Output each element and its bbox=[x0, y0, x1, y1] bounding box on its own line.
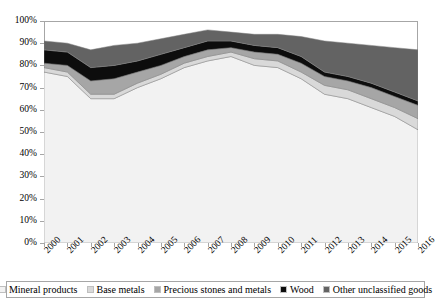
y-axis-tick-label: 0% bbox=[24, 238, 37, 248]
chart-legend: Mineral productsBase metalsPrecious ston… bbox=[6, 281, 425, 298]
y-axis-tick-label: 80% bbox=[20, 61, 37, 71]
legend-swatch-icon bbox=[0, 286, 6, 293]
y-axis-tick-label: 50% bbox=[20, 127, 37, 137]
legend-item[interactable]: Precious stones and metals bbox=[154, 284, 271, 295]
legend-label: Wood bbox=[290, 284, 314, 295]
y-axis-tick-label: 70% bbox=[20, 83, 37, 93]
plot-area bbox=[44, 21, 418, 243]
y-axis-tick-label: 10% bbox=[20, 216, 37, 226]
x-axis: 2000200120022003200420052006200720082009… bbox=[44, 243, 418, 277]
y-axis-tick-label: 90% bbox=[20, 38, 37, 48]
legend-item[interactable]: Other unclassified goods bbox=[323, 284, 432, 295]
legend-label: Other unclassified goods bbox=[333, 284, 432, 295]
stacked-area-series bbox=[44, 21, 418, 243]
legend-swatch-icon bbox=[280, 286, 287, 293]
legend-label: Precious stones and metals bbox=[164, 284, 271, 295]
legend-label: Mineral products bbox=[9, 284, 78, 295]
y-axis-tick-label: 40% bbox=[20, 149, 37, 159]
y-axis-tick-label: 100% bbox=[15, 16, 37, 26]
y-axis-tick-label: 30% bbox=[20, 172, 37, 182]
legend-swatch-icon bbox=[323, 286, 330, 293]
legend-swatch-icon bbox=[87, 286, 94, 293]
legend-item[interactable]: Wood bbox=[280, 284, 314, 295]
legend-item[interactable]: Mineral products bbox=[0, 284, 78, 295]
legend-item[interactable]: Base metals bbox=[87, 284, 145, 295]
legend-label: Base metals bbox=[97, 284, 145, 295]
legend-swatch-icon bbox=[154, 286, 161, 293]
x-axis-tick-label: 2016 bbox=[416, 235, 437, 256]
y-axis-tick-label: 60% bbox=[20, 105, 37, 115]
y-axis: 0%10%20%30%40%50%60%70%80%90%100% bbox=[0, 21, 44, 243]
y-axis-tick-label: 20% bbox=[20, 194, 37, 204]
